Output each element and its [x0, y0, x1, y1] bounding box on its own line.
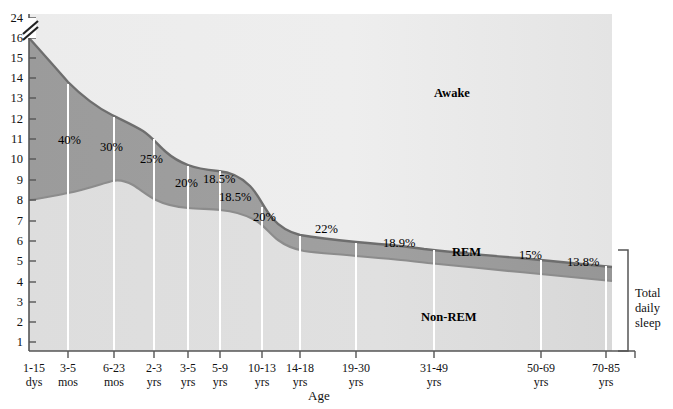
y-tick-label-9: 9	[1, 173, 23, 188]
rem-percent-label-14-18-yrs: 20%	[253, 210, 276, 225]
x-axis-title: Age	[308, 388, 330, 404]
rem-percent-label-50-69-yrs: 15%	[519, 248, 542, 263]
y-tick-label-2: 2	[1, 315, 23, 330]
x-tick-label-14-18-yrs: 14-18 yrs	[270, 362, 330, 389]
y-tick-label-5: 5	[1, 254, 23, 269]
y-tick-label-6: 6	[1, 234, 23, 249]
y-tick-label-11: 11	[1, 132, 23, 147]
x-tick-line2: yrs	[326, 376, 386, 390]
x-tick-label-50-69-yrs: 50-69 yrs	[511, 362, 571, 389]
awake-region-label: Awake	[434, 86, 470, 101]
y-tick-label-4: 4	[1, 275, 23, 290]
y-tick-label-16: 16	[1, 31, 23, 46]
x-tick-line2: yrs	[511, 376, 571, 390]
y-tick-label-1: 1	[1, 335, 23, 350]
bracket-label-line1: Total	[635, 286, 661, 301]
rem-percent-label-19-30-yrs: 22%	[315, 222, 338, 237]
x-tick-line2: yrs	[270, 376, 330, 390]
x-tick-label-19-30-yrs: 19-30 yrs	[326, 362, 386, 389]
x-tick-line1: 14-18	[270, 362, 330, 376]
x-tick-label-31-49-yrs: 31-49 yrs	[404, 362, 464, 389]
rem-region-label: REM	[452, 245, 481, 260]
y-tick-label-24: 24	[1, 11, 23, 26]
x-tick-line1: 31-49	[404, 362, 464, 376]
rem-percent-label-31-49-yrs: 18.9%	[383, 236, 415, 251]
x-tick-marks	[68, 351, 635, 358]
rem-percent-label-70-85-yrs: 13.8%	[567, 255, 599, 270]
y-tick-label-12: 12	[1, 112, 23, 127]
x-tick-line1: 19-30	[326, 362, 386, 376]
rem-percent-label-3-5-yrs: 20%	[175, 176, 198, 191]
y-tick-label-14: 14	[1, 71, 23, 86]
x-tick-line2: yrs	[576, 376, 636, 390]
nonrem-region-label: Non-REM	[421, 310, 477, 325]
x-tick-label-70-85-yrs: 70-85 yrs	[576, 362, 636, 389]
y-tick-label-7: 7	[1, 214, 23, 229]
rem-percent-label-3-5-mos: 40%	[58, 133, 81, 148]
x-tick-line2: yrs	[404, 376, 464, 390]
y-tick-label-8: 8	[1, 193, 23, 208]
rem-percent-label-6-23-mos: 30%	[100, 140, 123, 155]
total-daily-sleep-bracket	[618, 250, 628, 351]
sleep-stages-chart: 24 16 15 14 13 12 11 10 9 8 7 6 5 4 3 2 …	[0, 0, 673, 409]
axis-break-icon	[23, 18, 38, 40]
rem-percent-label-5-9-yrs: 18.5%	[203, 172, 235, 187]
y-tick-label-15: 15	[1, 51, 23, 66]
chart-canvas	[0, 0, 673, 409]
rem-percent-label-10-13-yrs: 18.5%	[219, 190, 251, 205]
y-tick-label-10: 10	[1, 152, 23, 167]
x-tick-line1: 50-69	[511, 362, 571, 376]
bracket-label-line2: daily	[635, 301, 661, 316]
rem-percent-label-2-3-yrs: 25%	[140, 152, 163, 167]
x-tick-line1: 70-85	[576, 362, 636, 376]
y-tick-label-13: 13	[1, 91, 23, 106]
total-daily-sleep-label: Total daily sleep	[635, 286, 661, 331]
bracket-label-line3: sleep	[635, 316, 661, 331]
y-tick-label-3: 3	[1, 295, 23, 310]
